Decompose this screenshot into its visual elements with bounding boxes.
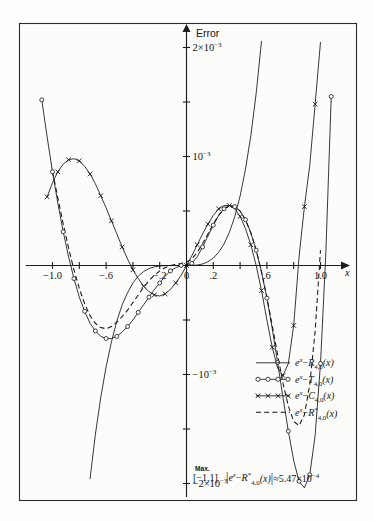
y-axis-title: Error <box>196 27 220 39</box>
x-axis-title: x <box>344 267 350 278</box>
marker-circle <box>254 248 258 252</box>
x-tick-label-10: 1.0 <box>314 270 327 281</box>
marker-circle <box>158 281 162 285</box>
marker-circle <box>233 205 237 209</box>
marker-circle <box>40 98 44 102</box>
x-tick-label-8: .6 <box>263 270 271 281</box>
legend-marker-circle <box>286 377 290 381</box>
chart-canvas: −1.0−.6−.20.2.61.02×10−310−3−10−3−2×10−3… <box>0 0 374 521</box>
marker-circle <box>61 230 65 234</box>
marker-circle <box>104 337 108 341</box>
marker-circle <box>190 261 194 265</box>
error-plot-figure: −1.0−.6−.20.2.61.02×10−310−3−10−3−2×10−3… <box>0 0 374 521</box>
marker-circle <box>243 218 247 222</box>
marker-circle <box>93 329 97 333</box>
caption-interval: [−1,1] <box>193 472 218 483</box>
caption-max-label: Max. <box>195 465 210 472</box>
marker-circle <box>115 334 119 338</box>
x-tick-label-4: −.2 <box>153 270 167 281</box>
x-tick-label-6: .2 <box>209 270 217 281</box>
marker-circle <box>136 310 140 314</box>
marker-circle <box>179 264 183 268</box>
marker-circle <box>211 223 215 227</box>
legend-marker-circle <box>266 377 270 381</box>
marker-circle <box>329 95 333 99</box>
marker-circle <box>83 309 87 313</box>
x-tick-label-5: 0 <box>184 270 189 281</box>
marker-circle <box>126 325 130 329</box>
marker-circle <box>201 245 205 249</box>
marker-circle <box>168 269 172 273</box>
legend-marker-circle <box>276 377 280 381</box>
legend-marker-circle <box>256 377 260 381</box>
marker-circle <box>51 170 55 174</box>
x-tick-label-0: −1.0 <box>43 270 62 281</box>
marker-circle <box>286 429 290 433</box>
marker-circle <box>265 296 269 300</box>
x-tick-label-2: −.6 <box>99 270 113 281</box>
marker-circle <box>222 207 226 211</box>
marker-circle <box>72 277 76 281</box>
marker-circle <box>147 295 151 299</box>
